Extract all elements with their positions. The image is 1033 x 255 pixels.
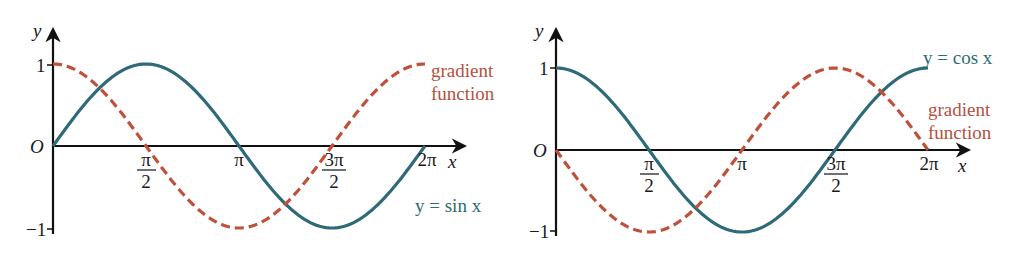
right-xtick-3pi2-num: 3π: [826, 153, 846, 174]
right-origin-label: O: [533, 140, 547, 161]
left-xtick-3pi2-num: 3π: [324, 149, 344, 170]
left-x-label: x: [447, 151, 457, 172]
left-gradient-label-line1: gradient: [431, 60, 494, 81]
left-xtick-3pi2-den: 2: [329, 171, 339, 192]
figure: y x O 1 −1 π 2 π 3π 2 2π y = sin x gradi…: [0, 0, 1033, 255]
right-xtick-2pi: 2π: [919, 153, 939, 174]
right-chart: y x O 1 −1 π 2 π 3π 2 2π y = cos x gradi…: [529, 20, 993, 242]
left-xtick-pi2-den: 2: [141, 171, 151, 192]
left-xtick-2pi: 2π: [417, 149, 437, 170]
left-curve-label: y = sin x: [415, 195, 482, 216]
right-curve-label: y = cos x: [923, 47, 993, 68]
right-xtick-pi2-num: π: [644, 153, 654, 174]
right-ytick-label-1: 1: [539, 58, 549, 79]
left-chart: y x O 1 −1 π 2 π 3π 2 2π y = sin x gradi…: [26, 20, 495, 240]
right-x-label: x: [957, 155, 967, 176]
left-y-label: y: [31, 20, 42, 41]
left-gradient-label-line2: function: [431, 83, 495, 104]
left-ytick-label-1: 1: [36, 55, 46, 76]
left-xtick-pi2-num: π: [141, 149, 151, 170]
left-xtick-pi: π: [234, 149, 244, 170]
right-xtick-pi: π: [737, 153, 747, 174]
right-xtick-pi2-den: 2: [644, 175, 654, 196]
right-y-label: y: [533, 20, 544, 41]
right-gradient-label-line2: function: [928, 122, 992, 143]
right-gradient-label-line1: gradient: [928, 99, 991, 120]
right-xtick-3pi2-den: 2: [831, 175, 841, 196]
left-ytick-label-neg1: −1: [26, 219, 46, 240]
left-origin-label: O: [30, 136, 44, 157]
right-ytick-label-neg1: −1: [529, 221, 549, 242]
